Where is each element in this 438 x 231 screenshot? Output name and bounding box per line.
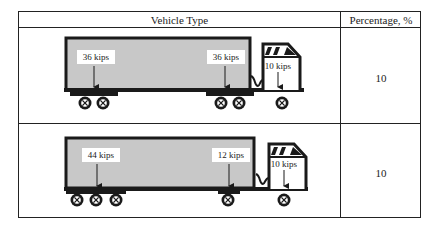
trailer-2-body bbox=[66, 138, 254, 188]
load-label: 44 kips bbox=[88, 150, 115, 160]
load-label: 12 kips bbox=[218, 150, 245, 160]
truck-diagrams: 36 kips 36 kips 10 kips 44 kips 12 kips bbox=[0, 0, 438, 231]
wheel-icon bbox=[222, 194, 235, 207]
load-label: 36 kips bbox=[83, 52, 110, 62]
wheel-icon bbox=[278, 194, 291, 207]
wheel-icon bbox=[71, 194, 84, 207]
truck-1: 36 kips 36 kips 10 kips bbox=[64, 38, 304, 110]
wheel-icon bbox=[215, 97, 228, 110]
wheel-icon bbox=[110, 194, 123, 207]
wheel-icon bbox=[276, 97, 289, 110]
load-label: 36 kips bbox=[213, 52, 240, 62]
wheel-icon bbox=[233, 97, 246, 110]
wheel-icon bbox=[79, 97, 92, 110]
load-label: 10 kips bbox=[265, 61, 292, 71]
wheel-icon bbox=[97, 97, 110, 110]
load-label: 10 kips bbox=[271, 159, 298, 169]
wheel-icon bbox=[90, 194, 103, 207]
truck-2: 44 kips 12 kips 10 kips bbox=[64, 138, 308, 207]
